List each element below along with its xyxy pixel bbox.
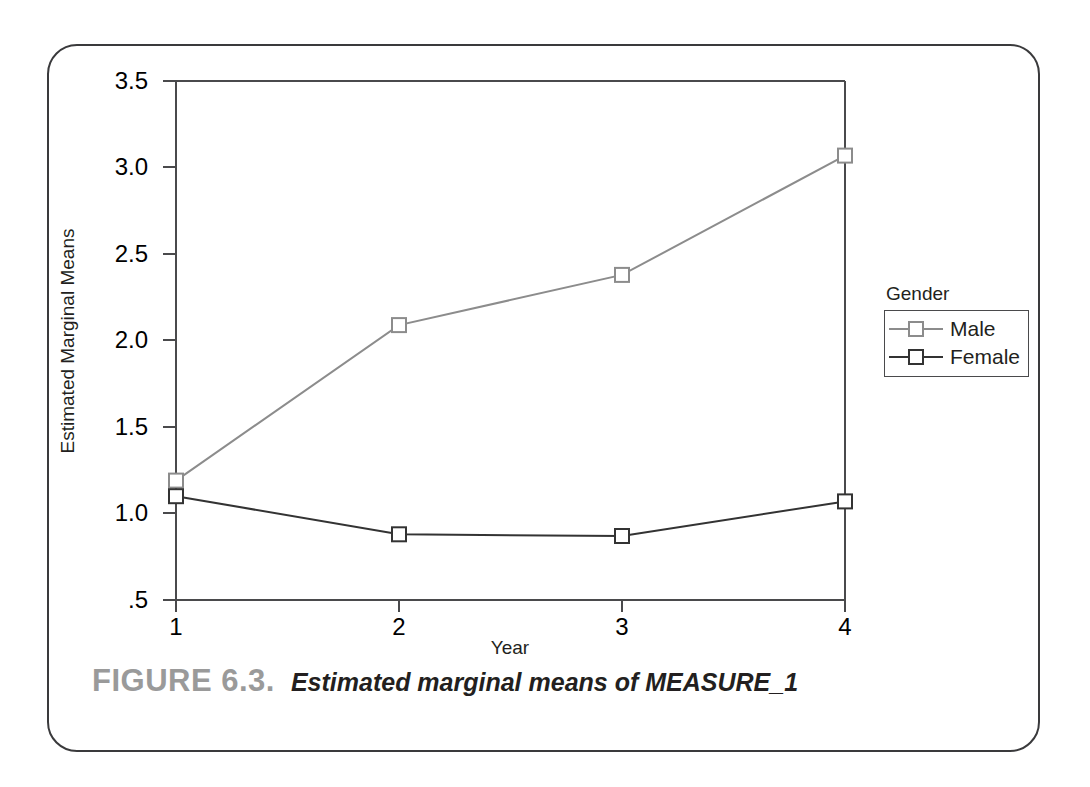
y-tick-label-1.5: 1.5 [78, 413, 148, 441]
x-axis-ticks [176, 600, 845, 612]
y-tick-label-0.5: .5 [78, 586, 148, 614]
plot-frame [176, 81, 845, 600]
y-tick-label-1.0: 1.0 [78, 499, 148, 527]
figure-number: FIGURE 6.3. [92, 663, 275, 699]
data-point-male-3 [615, 268, 629, 282]
legend-item-female[interactable]: Female [889, 343, 1020, 371]
series-female [169, 489, 852, 543]
series-male [169, 149, 852, 488]
legend-title: Gender [884, 283, 1064, 305]
legend-item-male[interactable]: Male [889, 315, 1020, 343]
x-axis-title: Year [410, 637, 610, 659]
y-tick-label-2.0: 2.0 [78, 326, 148, 354]
legend-label-male: Male [950, 317, 996, 341]
legend-box: Male Female [884, 310, 1029, 377]
x-tick-label-4: 4 [825, 613, 865, 641]
legend-label-female: Female [950, 345, 1020, 369]
data-point-female-2 [392, 527, 406, 541]
y-tick-label-2.5: 2.5 [78, 240, 148, 268]
data-point-male-4 [838, 149, 852, 163]
y-tick-label-3.5: 3.5 [78, 67, 148, 95]
legend-marker-male-icon [889, 320, 943, 338]
x-tick-label-1: 1 [156, 613, 196, 641]
y-tick-label-3.0: 3.0 [78, 153, 148, 181]
data-point-female-1 [169, 489, 183, 503]
figure-caption: FIGURE 6.3. Estimated marginal means of … [92, 663, 798, 699]
legend: Gender Male Female [884, 283, 1064, 377]
legend-marker-female-icon [889, 348, 943, 366]
y-axis-title: Estimated Marginal Means [57, 211, 79, 471]
figure-container: 3.5 3.0 2.5 2.0 1.5 1.0 .5 1 2 3 4 Estim… [0, 0, 1090, 787]
data-point-male-1 [169, 474, 183, 488]
y-axis-ticks [163, 81, 176, 600]
data-point-female-4 [838, 494, 852, 508]
figure-caption-text: Estimated marginal means of MEASURE_1 [291, 668, 798, 697]
data-point-female-3 [615, 529, 629, 543]
data-point-male-2 [392, 318, 406, 332]
